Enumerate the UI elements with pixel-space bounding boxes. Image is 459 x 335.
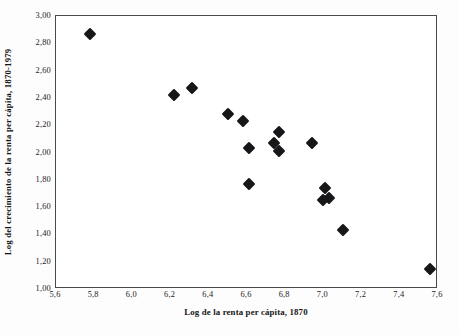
x-axis-tick-label: 5,8 xyxy=(88,290,99,299)
x-axis-tick-label: 6,0 xyxy=(126,290,137,299)
data-point-marker xyxy=(336,224,349,237)
data-point-marker xyxy=(185,82,198,95)
y-axis-tick-label: 2,40 xyxy=(3,92,51,101)
scatter-plot-figure: Log del crecimiento de la renta per cápi… xyxy=(0,0,459,335)
x-axis-tick-label: 7,2 xyxy=(355,290,366,299)
data-point-marker xyxy=(243,178,256,191)
x-axis-tick-label: 6,4 xyxy=(202,290,213,299)
data-point-marker xyxy=(84,27,97,40)
y-axis-tick-label: 3,00 xyxy=(3,11,51,20)
y-axis-tick-label: 1,60 xyxy=(3,202,51,211)
y-axis-tick-label: 1,00 xyxy=(3,284,51,293)
x-axis-tick-label: 7,4 xyxy=(393,290,404,299)
data-point-marker xyxy=(222,108,235,121)
data-point-marker xyxy=(306,137,319,150)
data-point-marker xyxy=(273,126,286,139)
y-axis-tick-label: 1,20 xyxy=(3,256,51,265)
x-axis-tick-label: 6,6 xyxy=(240,290,251,299)
data-point-marker xyxy=(243,142,256,155)
y-axis-tick-label: 2,20 xyxy=(3,120,51,129)
y-axis-tick-label: 1,80 xyxy=(3,174,51,183)
x-axis-tick-label: 5,6 xyxy=(49,290,60,299)
data-point-marker xyxy=(424,262,437,275)
y-axis-tick-label: 2,00 xyxy=(3,147,51,156)
y-axis-tick-label: 2,80 xyxy=(3,38,51,47)
data-point-marker xyxy=(237,115,250,128)
data-point-marker xyxy=(168,89,181,102)
y-axis-tick-label: 2,60 xyxy=(3,65,51,74)
x-axis-tick-label: 7,6 xyxy=(431,290,442,299)
x-axis-tick-label: 7,0 xyxy=(317,290,328,299)
x-axis-tick-label: 6,2 xyxy=(164,290,175,299)
y-axis-tick-labels: 1,001,201,401,601,802,002,202,402,602,80… xyxy=(0,15,51,288)
x-axis-tick-labels: 5,65,86,06,26,46,66,87,07,27,47,6 xyxy=(55,290,437,304)
plot-frame xyxy=(55,15,437,288)
y-axis-tick-label: 1,40 xyxy=(3,229,51,238)
plot-area xyxy=(56,16,436,287)
data-point-marker xyxy=(273,145,286,158)
x-axis-tick-label: 6,8 xyxy=(279,290,290,299)
x-axis-title: Log de la renta per cápita, 1870 xyxy=(55,307,437,317)
